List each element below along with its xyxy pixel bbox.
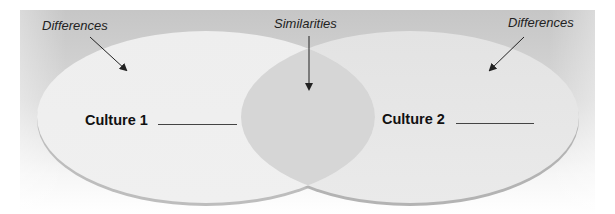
culture-2-blank-line xyxy=(456,123,534,124)
culture-1-label: Culture 1 xyxy=(85,113,148,128)
venn-diagram: Differences Similarities Differences Cul… xyxy=(0,0,615,214)
similarities-label: Similarities xyxy=(274,17,337,30)
right-differences-label: Differences xyxy=(508,16,574,29)
culture-2-label: Culture 2 xyxy=(382,112,445,127)
left-differences-label: Differences xyxy=(42,19,108,32)
culture-1-blank-line xyxy=(158,124,237,125)
